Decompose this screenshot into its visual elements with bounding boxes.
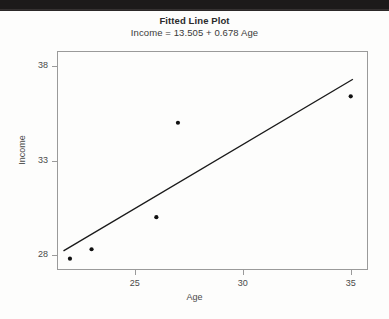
plot-canvas: [57, 51, 368, 270]
data-point: [89, 247, 93, 251]
data-point: [176, 121, 180, 125]
data-points: [68, 94, 353, 261]
data-point: [68, 257, 72, 261]
fit-line: [63, 79, 352, 251]
regression-line: [63, 79, 352, 251]
data-point: [349, 94, 353, 98]
y-tick-label: 28: [26, 249, 48, 259]
y-tick-mark: [52, 255, 57, 256]
y-tick-mark: [52, 66, 57, 67]
chart-subtitle-equation: Income = 13.505 + 0.678 Age: [0, 27, 389, 38]
x-tick-mark: [351, 270, 352, 275]
fitted-line-plot-figure: Fitted Line Plot Income = 13.505 + 0.678…: [0, 0, 389, 319]
chart-title: Fitted Line Plot: [0, 15, 389, 26]
x-tick-label: 35: [336, 278, 366, 288]
x-tick-mark: [243, 270, 244, 275]
y-tick-mark: [52, 161, 57, 162]
x-tick-mark: [135, 270, 136, 275]
x-tick-label: 30: [228, 278, 258, 288]
y-tick-label: 38: [26, 60, 48, 70]
y-tick-label: 33: [26, 155, 48, 165]
x-tick-label: 25: [120, 278, 150, 288]
data-point: [154, 215, 158, 219]
x-axis-label: Age: [0, 292, 389, 302]
y-axis-label: Income: [17, 120, 27, 180]
